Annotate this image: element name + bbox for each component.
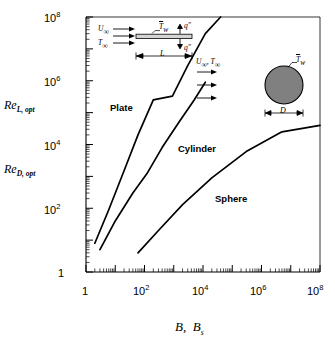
- plate-t-inf-label: T∞: [98, 39, 108, 49]
- sphere-flow-label: U∞, T∞: [196, 58, 220, 68]
- plate-wall-temp-label: Tw: [159, 23, 168, 33]
- x-tick-label-1e6: 106: [250, 284, 266, 297]
- data-curves: [95, 17, 320, 253]
- y-tick-label-1e6: 106: [44, 75, 60, 88]
- y-tick-label-1e2: 102: [44, 203, 60, 216]
- plate-flux-bottom-label: q″: [184, 44, 191, 52]
- x-tick-label-1e2: 102: [133, 284, 149, 297]
- chart-svg: [0, 0, 335, 346]
- plate-flux-top-label: q″: [184, 22, 191, 30]
- y-axis-ticks: [86, 17, 93, 272]
- y-tick-label-1e4: 104: [44, 139, 60, 152]
- flat-plate-inset: [113, 24, 192, 59]
- curve-label-plate: Plate: [110, 103, 133, 113]
- x-tick-label-1e8: 108: [307, 284, 323, 297]
- curve-plate: [95, 17, 221, 243]
- x-axis-ticks: [86, 265, 320, 272]
- figure-container: 108 106 104 102 1 1 102 104 106 108 ReL,…: [0, 0, 335, 346]
- x-tick-label-1e4: 104: [192, 284, 208, 297]
- plate-flow-arrowheads: [129, 26, 135, 45]
- y-axis-title-lower: ReD, opt: [4, 163, 35, 178]
- y-tick-label-1e8: 108: [44, 11, 60, 24]
- curve-label-cylinder: Cylinder: [178, 144, 216, 154]
- curve-sphere: [138, 125, 320, 253]
- curve-label-sphere: Sphere: [215, 194, 247, 204]
- x-axis-title: B, Bs: [175, 320, 204, 336]
- y-axis-title-upper: ReL, opt: [4, 99, 35, 114]
- x-tick-label-1: 1: [82, 284, 88, 297]
- sphere-wall-temp-label: Tw: [296, 56, 305, 66]
- plate-body: [136, 34, 192, 38]
- sphere-shape: [265, 66, 303, 104]
- plate-u-inf-label: U∞: [98, 25, 109, 35]
- y-tick-label-1: 1: [58, 266, 64, 279]
- sphere-diameter-label: D: [280, 107, 286, 115]
- sphere-inset: [197, 63, 303, 117]
- plate-length-label: L: [160, 50, 164, 58]
